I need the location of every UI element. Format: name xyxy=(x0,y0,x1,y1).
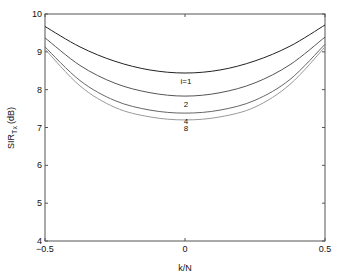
series-label: 2 xyxy=(184,100,189,109)
y-axis-label: SIRTx(dB) xyxy=(6,107,18,149)
y-tick-label: 9 xyxy=(37,47,42,57)
x-axis-label: k/N xyxy=(178,263,192,273)
x-tick-label: 0 xyxy=(182,244,187,254)
y-tick-label: 7 xyxy=(37,123,42,133)
y-axis-label-subscript: Tx xyxy=(11,126,18,134)
y-tick-label: 10 xyxy=(32,9,42,19)
x-tick-label: −0.5 xyxy=(36,244,54,254)
series-label: 8 xyxy=(184,124,189,133)
y-tick-label: 8 xyxy=(37,85,42,95)
series-label: i=1 xyxy=(181,77,192,86)
line-chart: 45678910 −0.500.5 i=1248 k/N SIRTx(dB) xyxy=(0,0,340,278)
x-tick-label: 0.5 xyxy=(319,244,332,254)
y-axis-label-unit: (dB) xyxy=(6,107,16,124)
y-axis-label-main: SIR xyxy=(6,133,16,149)
y-tick-label: 5 xyxy=(37,198,42,208)
y-tick-label: 6 xyxy=(37,160,42,170)
svg-text:SIRTx(dB): SIRTx(dB) xyxy=(6,107,18,149)
